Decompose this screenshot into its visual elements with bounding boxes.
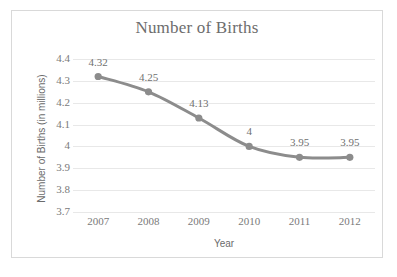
- data-point-marker: [145, 88, 152, 95]
- series-line-births: [73, 59, 375, 212]
- data-label: 3.95: [290, 136, 309, 148]
- data-point-marker: [296, 154, 303, 161]
- y-tick-label: 4.1: [30, 118, 70, 130]
- x-tick-label: 2008: [138, 215, 160, 227]
- x-tick-label: 2009: [188, 215, 210, 227]
- y-axis-tick-labels: 4.44.34.24.143.93.83.7: [26, 59, 70, 212]
- y-tick-label: 4.4: [30, 52, 70, 64]
- gridline: [73, 212, 375, 213]
- data-label: 4.25: [139, 71, 158, 83]
- data-point-marker: [346, 154, 353, 161]
- y-tick-label: 3.8: [30, 183, 70, 195]
- y-tick-label: 4: [30, 139, 70, 151]
- y-tick-label: 4.2: [30, 96, 70, 108]
- data-point-marker: [195, 114, 202, 121]
- y-tick-label: 3.9: [30, 161, 70, 173]
- y-tick-label: 3.7: [30, 205, 70, 217]
- series-path: [98, 76, 350, 158]
- data-label: 4: [246, 125, 252, 137]
- plot-area: 4.324.254.1343.953.95: [73, 59, 375, 212]
- x-tick-label: 2010: [238, 215, 260, 227]
- x-tick-label: 2012: [339, 215, 361, 227]
- x-tick-label: 2007: [87, 215, 109, 227]
- data-point-marker: [246, 143, 253, 150]
- y-tick-label: 4.3: [30, 74, 70, 86]
- data-label: 3.95: [340, 136, 359, 148]
- x-tick-label: 2011: [289, 215, 311, 227]
- data-point-marker: [95, 73, 102, 80]
- chart-title: Number of Births: [11, 18, 383, 38]
- x-axis-tick-labels: 200720082009201020112012: [73, 215, 375, 231]
- data-label: 4.32: [89, 56, 108, 68]
- data-label: 4.13: [189, 97, 208, 109]
- x-axis-title: Year: [73, 238, 375, 249]
- chart-container: Number of Births Number of Births (in mi…: [0, 0, 397, 277]
